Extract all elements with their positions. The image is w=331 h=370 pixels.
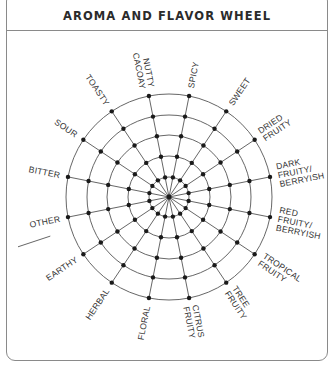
rating-dot[interactable] (163, 175, 167, 179)
rating-dot[interactable] (201, 246, 205, 250)
flavor-label-nutty-cacoay: NUTTYCACOAY (131, 50, 157, 90)
rating-dot[interactable] (207, 203, 211, 207)
rating-dot[interactable] (86, 179, 90, 183)
rating-dot[interactable] (133, 172, 137, 176)
rating-dot[interactable] (224, 109, 228, 113)
rating-dot[interactable] (268, 175, 272, 179)
rating-dot[interactable] (132, 246, 136, 250)
rating-dot[interactable] (187, 94, 191, 98)
rating-dot[interactable] (186, 191, 190, 195)
rating-dot[interactable] (187, 296, 191, 300)
rating-dot[interactable] (179, 134, 183, 138)
rating-dot[interactable] (132, 143, 136, 147)
rating-dot[interactable] (66, 175, 70, 179)
rating-dot[interactable] (106, 207, 110, 211)
flavor-label-dark-fruity-berryish: DARKFRUITY/BERRYISH (275, 153, 325, 189)
rating-dot[interactable] (183, 275, 187, 279)
flavor-label-red-fruity-berryish: REDFRUITY/BERRYISH (275, 205, 325, 241)
rating-dot[interactable] (147, 94, 151, 98)
rating-dot[interactable] (151, 114, 155, 118)
rating-dot[interactable] (150, 184, 154, 188)
rating-dot[interactable] (228, 207, 232, 211)
rating-dot[interactable] (178, 211, 182, 215)
rating-dot[interactable] (212, 263, 216, 267)
rating-dot[interactable] (66, 215, 70, 219)
rating-dot[interactable] (218, 229, 222, 233)
rating-dot[interactable] (201, 143, 205, 147)
rating-dot[interactable] (147, 296, 151, 300)
rating-dot[interactable] (175, 155, 179, 159)
rating-dot[interactable] (159, 155, 163, 159)
wheel-grid (66, 94, 272, 300)
rating-dot[interactable] (106, 183, 110, 187)
rating-dot[interactable] (81, 252, 85, 256)
rating-dot[interactable] (151, 275, 155, 279)
rating-dot[interactable] (86, 211, 90, 215)
rating-dot[interactable] (144, 229, 148, 233)
rating-dot[interactable] (190, 161, 194, 165)
flavor-label-tree-fruity: TREEFRUITY (223, 284, 257, 321)
rating-dot[interactable] (179, 256, 183, 260)
rating-dot[interactable] (247, 211, 251, 215)
rating-dot[interactable] (150, 206, 154, 210)
rating-dot[interactable] (110, 109, 114, 113)
rating-dot[interactable] (147, 191, 151, 195)
flavor-wheel-diagram: NUTTYCACOAYSPICYSWEETDRIEDFRUITYDARKFRUI… (0, 0, 331, 370)
rating-dot[interactable] (121, 127, 125, 131)
rating-dot[interactable] (252, 252, 256, 256)
flavor-label-bitter: BITTER (28, 164, 61, 180)
rating-dot[interactable] (121, 263, 125, 267)
rating-dot[interactable] (175, 235, 179, 239)
rating-dot[interactable] (155, 256, 159, 260)
rating-dot[interactable] (127, 203, 131, 207)
rating-dot[interactable] (171, 214, 175, 218)
other-write-in-line[interactable] (18, 236, 50, 247)
rating-dot[interactable] (218, 160, 222, 164)
center-dot (167, 195, 172, 200)
flavor-label-floral: FLORAL (136, 305, 153, 341)
rating-dot[interactable] (99, 149, 103, 153)
rating-dot[interactable] (235, 149, 239, 153)
rating-dot[interactable] (228, 183, 232, 187)
rating-dot[interactable] (186, 199, 190, 203)
rating-dot[interactable] (159, 235, 163, 239)
rating-dot[interactable] (183, 184, 187, 188)
flavor-label-earthy: EARTHY (44, 255, 79, 283)
rating-dot[interactable] (115, 229, 119, 233)
flavor-label-sweet: SWEET (227, 75, 253, 107)
rating-dot[interactable] (156, 211, 160, 215)
rating-dot[interactable] (144, 161, 148, 165)
rating-dot[interactable] (212, 127, 216, 131)
rating-dot[interactable] (224, 280, 228, 284)
rating-dot[interactable] (183, 206, 187, 210)
flavor-label-toasty: TOASTY (83, 72, 111, 107)
flavor-label-herbal: HERBAL (83, 287, 111, 322)
rating-dot[interactable] (235, 240, 239, 244)
rating-dot[interactable] (171, 175, 175, 179)
rating-dot[interactable] (99, 240, 103, 244)
rating-dot[interactable] (268, 215, 272, 219)
rating-dot[interactable] (133, 218, 137, 222)
flavor-label-dried-fruity: DRIEDFRUITY (256, 109, 293, 143)
rating-dot[interactable] (178, 178, 182, 182)
flavor-label-citrus-fruity: CITRUSFRUITY (181, 304, 206, 340)
flavor-label-sour: SOUR (53, 117, 80, 140)
rating-dot[interactable] (207, 187, 211, 191)
rating-dot[interactable] (190, 229, 194, 233)
rating-dot[interactable] (183, 114, 187, 118)
rating-dot[interactable] (110, 280, 114, 284)
rating-dot[interactable] (155, 134, 159, 138)
rating-dot[interactable] (201, 172, 205, 176)
flavor-label-other: OTHER (29, 214, 61, 230)
flavor-label-tropical-fruity: TROPICALFRUITY (256, 251, 304, 292)
rating-dot[interactable] (115, 160, 119, 164)
rating-dot[interactable] (163, 214, 167, 218)
rating-dot[interactable] (147, 199, 151, 203)
rating-dot[interactable] (201, 218, 205, 222)
rating-dot[interactable] (81, 138, 85, 142)
flavor-label-spicy: SPICY (186, 61, 201, 89)
rating-dot[interactable] (127, 187, 131, 191)
rating-dot[interactable] (156, 178, 160, 182)
rating-dot[interactable] (252, 138, 256, 142)
rating-dot[interactable] (247, 179, 251, 183)
